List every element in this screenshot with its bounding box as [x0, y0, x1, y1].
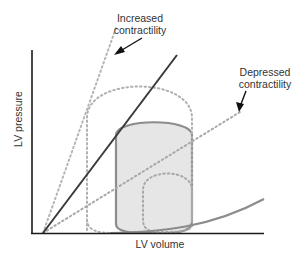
diagram-canvas — [0, 0, 302, 255]
arrow-depressed-head — [236, 102, 244, 112]
arrow-increased-head — [114, 46, 125, 55]
arrow-increased-shaft — [122, 38, 142, 50]
increased-label-line2: contractility — [100, 24, 180, 36]
pv-loop-diagram: Increased contractility Depressed contra… — [0, 0, 302, 255]
baseline-pv-loop — [116, 122, 192, 233]
x-axis-label: LV volume — [120, 238, 200, 250]
depressed-label-line2: contractility — [225, 78, 302, 90]
arrow-depressed-shaft — [241, 91, 246, 104]
increased-label-line1: Increased — [100, 12, 180, 24]
increased-contractility-label: Increased contractility — [100, 12, 180, 36]
depressed-contractility-label: Depressed contractility — [225, 66, 302, 90]
increased-loop-bottom — [87, 220, 115, 233]
depressed-label-line1: Depressed — [225, 66, 302, 78]
y-axis-label: LV pressure — [12, 79, 24, 159]
espvr-increased-line — [43, 28, 116, 233]
